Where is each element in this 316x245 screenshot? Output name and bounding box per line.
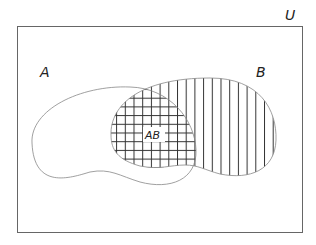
set-b-label: B <box>256 64 266 80</box>
venn-diagram: U A B AB <box>0 0 316 245</box>
universe-label: U <box>285 7 295 23</box>
intersection-label: AB <box>144 129 160 142</box>
set-a-label: A <box>39 64 50 80</box>
